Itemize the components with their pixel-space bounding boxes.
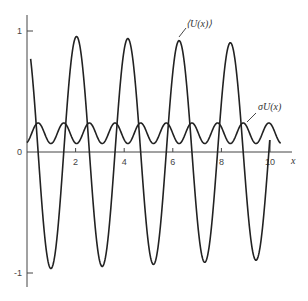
series-mean-u-line — [31, 37, 270, 269]
annotation-mean-u: ⟨U(x)⟩ — [186, 18, 212, 30]
y-tick-label: 0 — [17, 147, 22, 157]
x-tick-label: 4 — [122, 157, 127, 167]
x-tick-label: 6 — [170, 157, 175, 167]
chart: 24681010-1 x ⟨U(x)⟩ σU(x) — [0, 0, 308, 301]
y-tick-label: 1 — [17, 26, 22, 36]
annotation-sigma-u-arrow — [247, 113, 256, 122]
x-tick-label: 2 — [73, 157, 78, 167]
x-tick-label: 10 — [265, 157, 275, 167]
x-axis-label: x — [290, 155, 296, 166]
annotation-mean-u-arrow — [179, 28, 186, 37]
x-tick-label: 8 — [219, 157, 224, 167]
annotation-sigma-u: σU(x) — [258, 101, 282, 113]
y-tick-label: -1 — [14, 268, 22, 278]
